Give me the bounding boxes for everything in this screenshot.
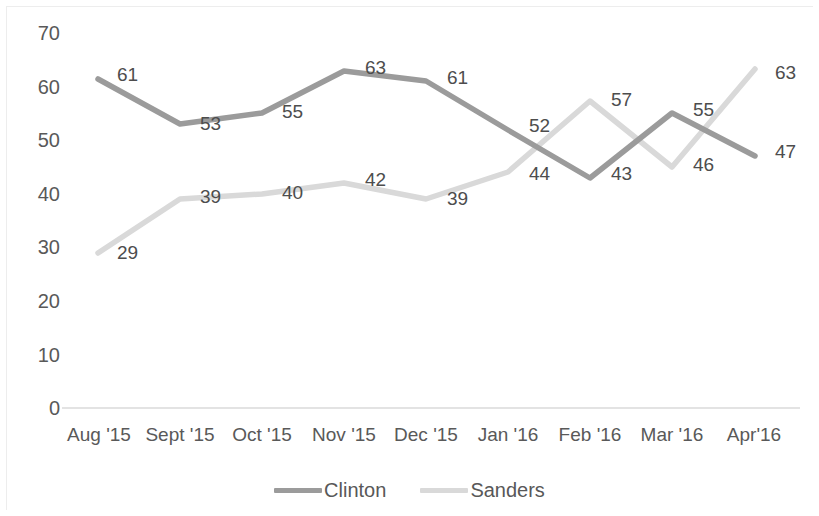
data-label-clinton-apr16: 47 — [775, 141, 796, 163]
x-axis-tick-feb16: Feb '16 — [549, 424, 631, 446]
data-label-sanders-dec15: 39 — [447, 188, 468, 210]
series-line-clinton — [98, 71, 755, 178]
x-axis-tick-aug15: Aug '15 — [58, 424, 140, 446]
legend-swatch-sanders-icon — [420, 488, 468, 493]
data-label-clinton-aug15: 61 — [117, 64, 138, 86]
series-line-sanders — [98, 69, 755, 253]
data-label-clinton-sept15: 53 — [200, 113, 221, 135]
data-label-sanders-jan16: 44 — [529, 163, 550, 185]
data-label-sanders-feb16: 57 — [611, 89, 632, 111]
legend-item-clinton[interactable]: Clinton — [274, 479, 386, 502]
data-label-clinton-mar16: 55 — [693, 99, 714, 121]
x-axis-tick-oct15: Oct '15 — [221, 424, 303, 446]
x-axis-tick-sept15: Sept '15 — [139, 424, 221, 446]
chart-container: 70 60 50 40 30 20 10 0 61 53 55 63 61 52… — [0, 0, 819, 516]
data-label-sanders-aug15: 29 — [117, 242, 138, 264]
x-axis-tick-jan16: Jan '16 — [467, 424, 549, 446]
x-axis-tick-dec15: Dec '15 — [385, 424, 467, 446]
legend-item-sanders[interactable]: Sanders — [420, 479, 545, 502]
x-axis-tick-nov15: Nov '15 — [303, 424, 385, 446]
data-label-clinton-nov15: 63 — [365, 57, 386, 79]
data-label-sanders-oct15: 40 — [282, 182, 303, 204]
data-label-clinton-feb16: 43 — [611, 163, 632, 185]
legend-label-sanders: Sanders — [470, 479, 545, 502]
legend-label-clinton: Clinton — [324, 479, 386, 502]
data-label-clinton-jan16: 52 — [529, 115, 550, 137]
x-axis-tick-mar16: Mar '16 — [631, 424, 713, 446]
data-label-sanders-mar16: 46 — [693, 154, 714, 176]
data-label-sanders-apr16: 63 — [775, 62, 796, 84]
legend-swatch-clinton-icon — [274, 488, 322, 493]
x-axis-tick-apr16: Apr'16 — [713, 424, 795, 446]
chart-legend: Clinton Sanders — [0, 470, 819, 510]
data-label-sanders-sept15: 39 — [200, 186, 221, 208]
data-label-sanders-nov15: 42 — [365, 169, 386, 191]
data-label-clinton-dec15: 61 — [447, 67, 468, 89]
data-label-clinton-oct15: 55 — [282, 101, 303, 123]
